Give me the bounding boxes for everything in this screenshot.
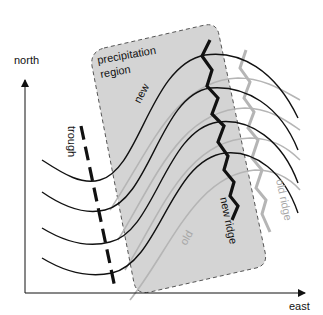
east-label: east — [289, 300, 310, 312]
north-label: north — [14, 54, 39, 66]
trough-label: trough — [66, 126, 78, 157]
old-ridge-label: old ridge — [274, 178, 295, 222]
precipitation-diagram: north east precipitation region new trou… — [0, 0, 323, 315]
